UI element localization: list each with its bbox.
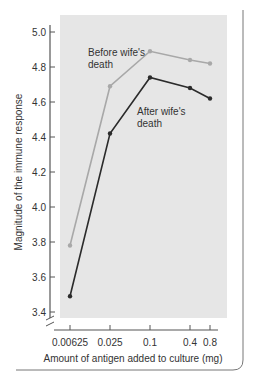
x-tick-label: 0.1: [143, 337, 157, 348]
data-point: [68, 294, 72, 298]
x-tick-label: 0.8: [203, 337, 217, 348]
y-ticks: 3.43.63.84.04.24.44.64.85.0: [32, 27, 55, 318]
data-point: [108, 131, 112, 135]
data-point: [68, 243, 72, 247]
x-ticks: 0.006250.0250.10.40.8: [52, 325, 217, 348]
y-axis-label: Magnitude of the immune response: [13, 93, 24, 250]
data-point: [148, 75, 152, 79]
data-point: [208, 61, 212, 65]
data-point: [208, 96, 212, 100]
chart: 3.43.63.84.04.24.44.64.85.0 0.006250.025…: [0, 0, 258, 383]
y-tick-label: 4.6: [32, 97, 46, 108]
x-axis-label: Amount of antigen added to culture (mg): [44, 353, 223, 364]
y-tick-label: 3.6: [32, 272, 46, 283]
y-tick-label: 4.8: [32, 62, 46, 73]
axis-break-icon: [46, 316, 54, 326]
y-tick-label: 4.2: [32, 167, 46, 178]
y-tick-label: 4.4: [32, 132, 46, 143]
data-point: [188, 86, 192, 90]
y-tick-label: 4.0: [32, 202, 46, 213]
data-point: [188, 58, 192, 62]
y-tick-label: 3.4: [32, 307, 46, 318]
data-point: [108, 84, 112, 88]
data-point: [148, 49, 152, 53]
x-tick-label: 0.00625: [52, 337, 89, 348]
plot-area: [60, 15, 227, 318]
y-tick-label: 3.8: [32, 237, 46, 248]
x-tick-label: 0.4: [183, 337, 197, 348]
x-tick-label: 0.025: [97, 337, 122, 348]
y-tick-label: 5.0: [32, 27, 46, 38]
